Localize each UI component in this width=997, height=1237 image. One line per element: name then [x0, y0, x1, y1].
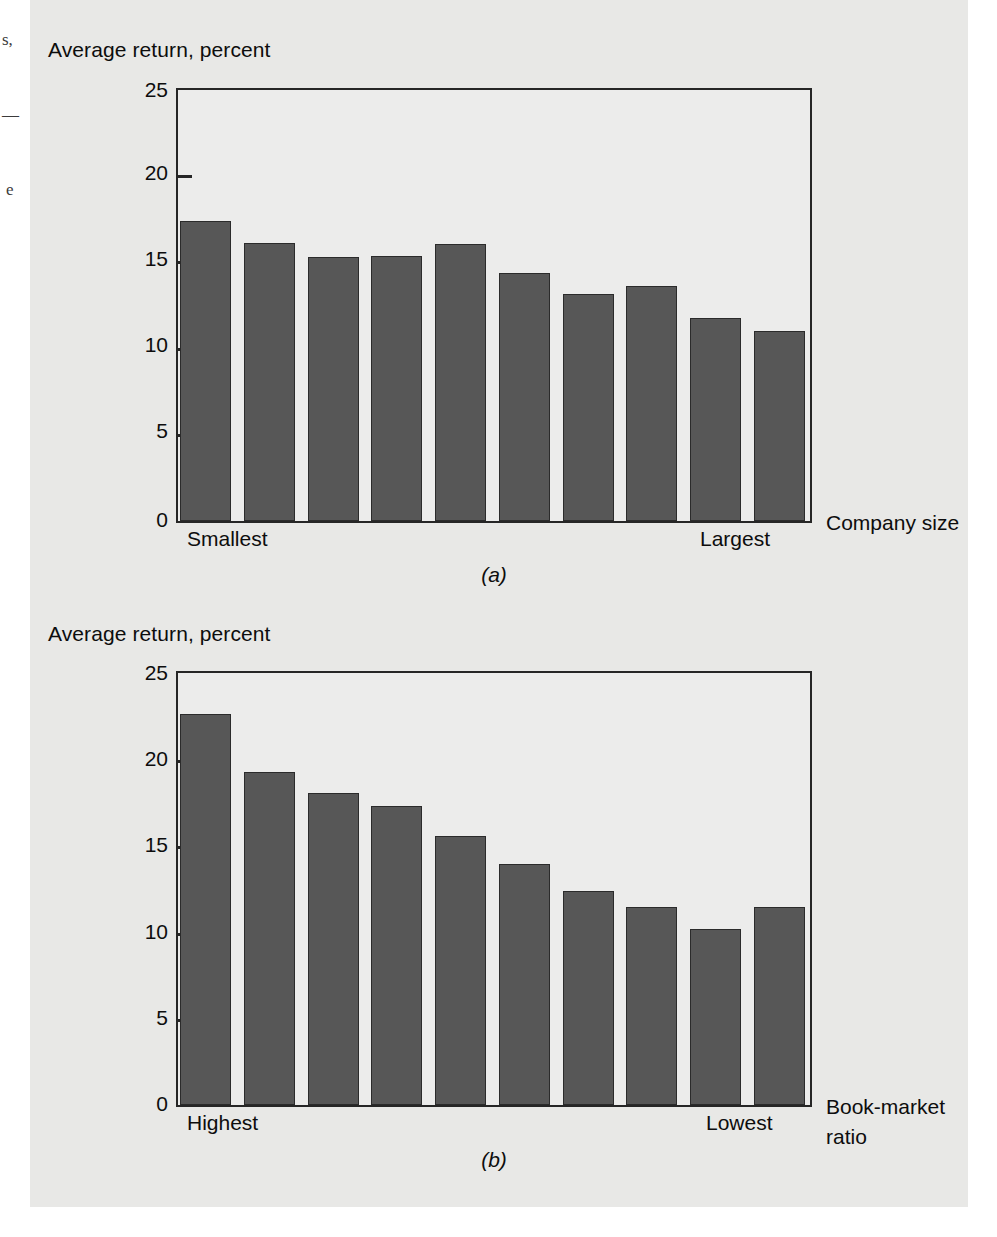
bar-b-10	[754, 907, 805, 1105]
bar-b-2	[244, 772, 295, 1105]
bar-b-9	[690, 929, 741, 1105]
y-tick-label-b-25: 25	[122, 661, 168, 685]
bar-b-5	[435, 836, 486, 1105]
y-tick-label-b-5: 5	[122, 1006, 168, 1030]
bar-b-8	[626, 907, 677, 1105]
bar-b-7	[563, 891, 614, 1105]
y-axis-title-b: Average return, percent	[48, 622, 271, 646]
y-tick-label-b-10: 10	[122, 920, 168, 944]
y-tick-label-b-20: 20	[122, 747, 168, 771]
bar-b-3	[308, 793, 359, 1105]
chart-panel-b: Average return, percent 25 20 15 10 5 0 …	[0, 0, 997, 1237]
bar-b-4	[371, 806, 422, 1105]
figure-page: s, — e Average return, percent 25 20 15 …	[0, 0, 997, 1237]
x-label-b-left: Highest	[187, 1111, 258, 1135]
bar-b-1	[180, 714, 231, 1105]
bar-series-b	[180, 673, 805, 1105]
x-axis-name-b-line1: Book-market	[826, 1094, 945, 1120]
y-tick-label-b-15: 15	[122, 833, 168, 857]
bar-b-6	[499, 864, 550, 1105]
x-axis-name-b-line2: ratio	[826, 1124, 867, 1150]
x-label-b-right: Lowest	[706, 1111, 773, 1135]
panel-letter-b: (b)	[464, 1148, 524, 1172]
y-tick-label-b-0: 0	[122, 1092, 168, 1116]
